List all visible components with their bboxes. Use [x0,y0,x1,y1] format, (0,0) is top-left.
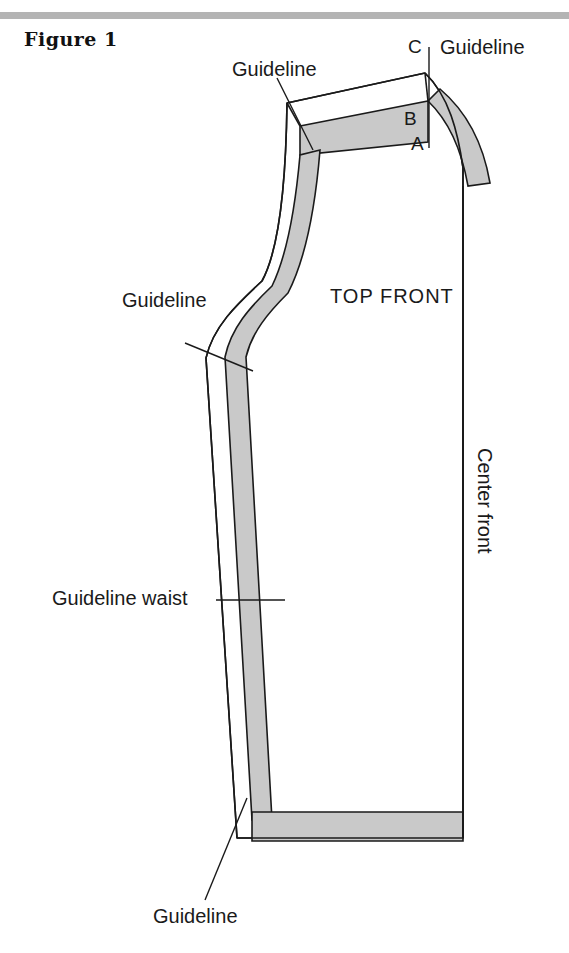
hem-seam-allowance [252,812,463,841]
label-guideline-armhole: Guideline [122,289,207,312]
label-point-b: B [404,108,417,130]
label-guideline-shoulder: Guideline [232,58,317,81]
label-guideline-neck: Guideline [440,36,525,59]
leader-guideline-hem [205,798,247,900]
label-guideline-waist: Guideline waist [52,587,188,610]
label-point-a: A [411,133,424,155]
label-guideline-hem: Guideline [153,905,238,928]
figure-page: Figure 1 [0,0,569,953]
label-center-front: Center front [473,448,496,554]
label-top-front: TOP FRONT [330,285,454,308]
label-point-c: C [408,36,422,58]
